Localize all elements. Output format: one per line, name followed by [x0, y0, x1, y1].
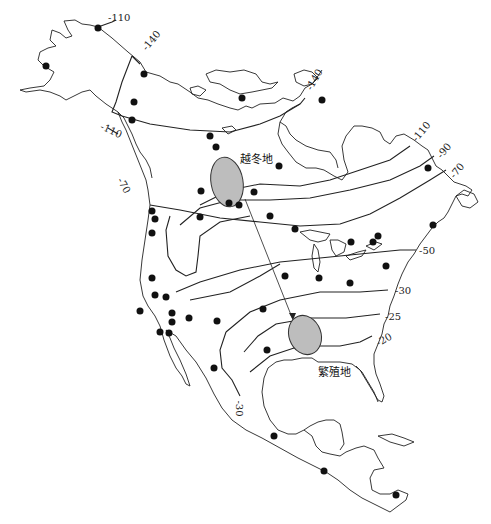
station-dots: [43, 25, 437, 499]
contour-50-inner: [190, 264, 280, 300]
contour-label: -25: [385, 311, 401, 322]
contour-70-bend: [166, 216, 250, 276]
contour-140-alaska: [112, 56, 132, 116]
contour-30-south: [220, 332, 240, 396]
contour-50: [176, 250, 416, 292]
contour-label: -30: [395, 285, 411, 296]
contour-label: -30: [234, 400, 245, 416]
coastline: [20, 20, 478, 512]
wintering-area-label: 越冬地: [240, 150, 273, 166]
contour-140-loop: [122, 56, 305, 132]
contour-70-loop: [150, 170, 446, 226]
contour-label: -50: [419, 245, 435, 256]
breeding-area-label: 繁殖地: [318, 363, 351, 379]
contour-label: -110: [108, 12, 130, 23]
north-america-map: [0, 0, 491, 524]
